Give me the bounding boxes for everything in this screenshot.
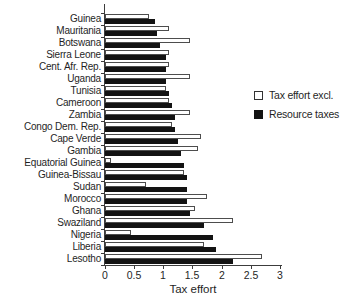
x-axis-tick-label: 1 (148, 269, 178, 281)
y-axis-tick (101, 37, 105, 38)
y-axis-tick (101, 25, 105, 26)
y-axis-tick (101, 217, 105, 218)
bar-resource-taxes (105, 247, 216, 252)
bar-resource-taxes (105, 223, 204, 228)
category-label: Mauritania (0, 25, 101, 37)
x-axis-tick-label: 1.5 (177, 269, 207, 281)
bar-resource-taxes (105, 67, 166, 72)
y-axis-tick (101, 193, 105, 194)
bar-resource-taxes (105, 127, 175, 132)
bar-chart-figure: GuineaMauritaniaBotswanaSierra LeoneCent… (0, 0, 344, 303)
category-label: Nigeria (0, 229, 101, 241)
y-axis-tick (101, 85, 105, 86)
category-label: Tunisia (0, 85, 101, 97)
y-axis-tick (101, 169, 105, 170)
bar-resource-taxes (105, 139, 178, 144)
category-label: Liberia (0, 241, 101, 253)
category-label: Cameroon (0, 97, 101, 109)
y-axis-tick (101, 121, 105, 122)
x-axis-tick-label: 0 (90, 269, 120, 281)
y-axis-tick (101, 133, 105, 134)
bar-resource-taxes (105, 91, 169, 96)
y-axis-tick (101, 61, 105, 62)
bar-resource-taxes (105, 103, 172, 108)
category-label: Equatorial Guinea (0, 157, 101, 169)
bar-resource-taxes (105, 211, 190, 216)
category-label: Morocco (0, 193, 101, 205)
x-axis-line (104, 265, 282, 266)
bar-resource-taxes (105, 187, 187, 192)
y-axis-tick (101, 145, 105, 146)
filled-square-icon (254, 110, 263, 119)
category-label: Cape Verde (0, 133, 101, 145)
x-axis-tick-label: 2 (207, 269, 237, 281)
legend-label: Resource taxes (269, 108, 339, 120)
bar-resource-taxes (105, 199, 187, 204)
category-label: Sudan (0, 181, 101, 193)
category-label: Guinea (0, 13, 101, 25)
category-label: Sierra Leone (0, 49, 101, 61)
category-label: Botswana (0, 37, 101, 49)
category-label: Gambia (0, 145, 101, 157)
y-axis-tick (101, 253, 105, 254)
y-axis-tick (101, 73, 105, 74)
y-axis-tick (101, 157, 105, 158)
open-square-icon (254, 91, 263, 100)
x-axis-title: Tax effort (105, 283, 281, 295)
y-axis-tick (101, 229, 105, 230)
y-axis-tick (101, 241, 105, 242)
category-label: Congo Dem. Rep. (0, 121, 101, 133)
bar-resource-taxes (105, 31, 157, 36)
category-label: Zambia (0, 109, 101, 121)
category-label: Uganda (0, 73, 101, 85)
bar-resource-taxes (105, 235, 213, 240)
legend-label: Tax effort excl. (269, 89, 333, 101)
bar-resource-taxes (105, 79, 166, 84)
bar-resource-taxes (105, 175, 187, 180)
bar-resource-taxes (105, 19, 155, 24)
category-label: Cent. Afr. Rep. (0, 61, 101, 73)
category-label: Swaziland (0, 217, 101, 229)
y-axis-tick (101, 205, 105, 206)
x-axis-tick-label: 0.5 (119, 269, 149, 281)
category-label: Lesotho (0, 253, 101, 265)
bar-resource-taxes (105, 55, 166, 60)
legend-item-tax-effort-excl: Tax effort excl. (254, 89, 339, 101)
category-label: Ghana (0, 205, 101, 217)
y-axis-tick (101, 181, 105, 182)
y-axis-tick (101, 13, 105, 14)
legend: Tax effort excl. Resource taxes (254, 89, 339, 127)
bar-resource-taxes (105, 151, 181, 156)
y-axis-tick (101, 97, 105, 98)
x-axis-tick-label: 2.5 (236, 269, 266, 281)
legend-item-resource-taxes: Resource taxes (254, 108, 339, 120)
bar-resource-taxes (105, 163, 184, 168)
bar-resource-taxes (105, 115, 175, 120)
x-axis-tick-label: 3 (265, 269, 295, 281)
y-axis-tick (101, 49, 105, 50)
bar-resource-taxes (105, 259, 233, 264)
category-label: Guinea-Bissau (0, 169, 101, 181)
y-axis-tick (101, 109, 105, 110)
bar-resource-taxes (105, 43, 160, 48)
